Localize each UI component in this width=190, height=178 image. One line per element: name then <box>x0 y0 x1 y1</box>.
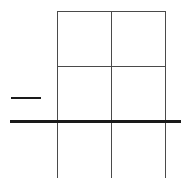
grid-column-divider <box>111 11 112 178</box>
short-dash <box>11 97 41 99</box>
diagram-canvas <box>0 0 190 178</box>
grid-left-border <box>57 11 58 178</box>
thick-horizontal-line <box>10 120 181 123</box>
grid-right-border <box>165 11 166 178</box>
